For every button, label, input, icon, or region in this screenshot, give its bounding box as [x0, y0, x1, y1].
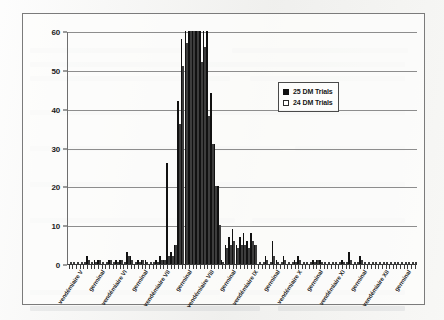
bar-s25 [166, 163, 168, 264]
legend-label-24-dm-trials: 24 DM Trials [293, 99, 333, 106]
bar-s24 [415, 262, 417, 264]
bar-group [414, 32, 418, 264]
x-axis-label: germinal [175, 269, 194, 292]
legend-swatch-25-dm-trials [283, 89, 289, 95]
x-axis-label: germinal [131, 269, 150, 292]
chart-legend: 25 DM Trials 24 DM Trials [278, 82, 339, 112]
chart-frame: 0102030405060 vendémiaire Vgerminalvendé… [22, 13, 425, 305]
x-axis-label: germinal [350, 269, 369, 292]
x-axis-label: vendémiaire V [57, 269, 84, 305]
x-axis-label: vendémiaire XI [318, 269, 346, 306]
y-axis-tick-label: 10 [52, 222, 61, 231]
plot-area [67, 32, 417, 265]
x-axis-label: germinal [393, 269, 412, 292]
y-axis-tick-label: 40 [52, 105, 61, 114]
y-axis-tick-label: 60 [52, 28, 61, 37]
x-axis-labels: vendémiaire Vgerminalvendémiaire VIgermi… [23, 269, 426, 319]
y-axis-tick-label: 50 [52, 66, 61, 75]
bar-series-container [68, 32, 417, 264]
x-axis-label: germinal [218, 269, 237, 292]
x-axis-label: germinal [306, 269, 325, 292]
x-axis-label: germinal [87, 269, 106, 292]
legend-swatch-24-dm-trials [283, 100, 289, 106]
legend-item-25-dm-trials: 25 DM Trials [283, 86, 333, 97]
y-axis: 0102030405060 [23, 14, 67, 266]
x-axis-label: germinal [262, 269, 281, 292]
y-axis-tick-label: 20 [52, 183, 61, 192]
legend-label-25-dm-trials: 25 DM Trials [293, 88, 333, 95]
legend-item-24-dm-trials: 24 DM Trials [283, 97, 333, 108]
y-axis-tick-label: 30 [52, 144, 61, 153]
